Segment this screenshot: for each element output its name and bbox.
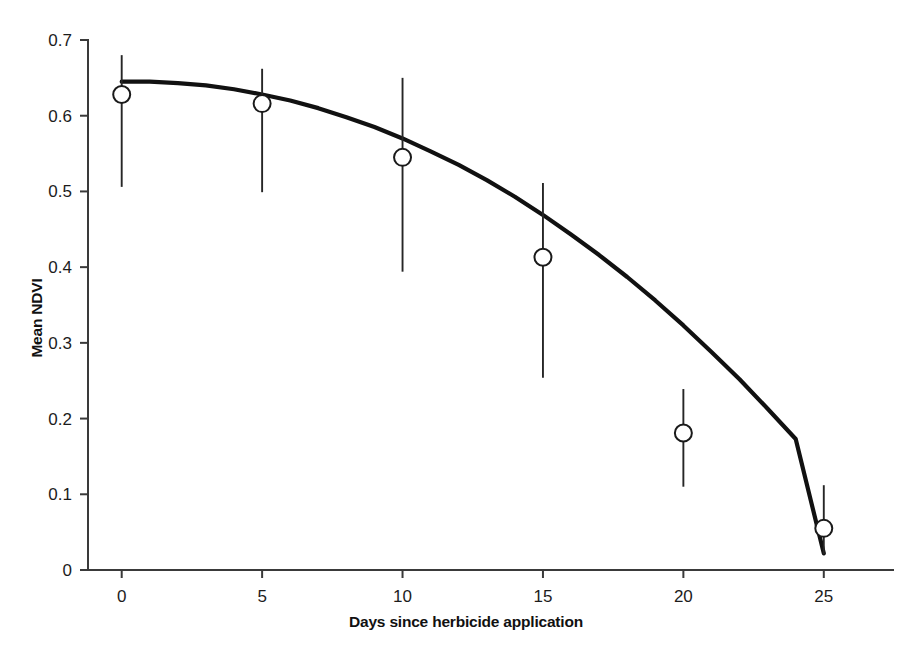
y-tick-label-7: 0.7 xyxy=(48,31,72,50)
y-tick-label-1: 0.1 xyxy=(48,485,72,504)
x-tick-label-2: 10 xyxy=(393,587,412,606)
y-tick-label-0: 0 xyxy=(63,561,72,580)
x-axis-tick-labels: 0510152025 xyxy=(117,587,833,606)
y-tick-label-5: 0.5 xyxy=(48,182,72,201)
data-point-0 xyxy=(113,86,130,103)
x-tick-label-0: 0 xyxy=(117,587,126,606)
data-point-markers xyxy=(113,86,832,537)
x-tick-label-4: 20 xyxy=(674,587,693,606)
fit-curve xyxy=(122,82,824,554)
y-axis-tick-labels: 00.10.20.30.40.50.60.7 xyxy=(48,31,72,580)
x-axis-title: Days since herbicide application xyxy=(349,613,583,630)
data-point-2 xyxy=(394,149,411,166)
x-tick-label-3: 15 xyxy=(533,587,552,606)
x-tick-label-5: 25 xyxy=(814,587,833,606)
data-point-5 xyxy=(815,520,832,537)
data-point-4 xyxy=(675,424,692,441)
y-tick-label-6: 0.6 xyxy=(48,107,72,126)
data-point-1 xyxy=(254,95,271,112)
y-tick-label-3: 0.3 xyxy=(48,334,72,353)
y-tick-label-4: 0.4 xyxy=(48,258,72,277)
data-point-3 xyxy=(534,249,551,266)
x-tick-label-1: 5 xyxy=(257,587,266,606)
chart-figure: 00.10.20.30.40.50.60.7 0510152025 Days s… xyxy=(0,0,924,653)
chart-plot-area: 00.10.20.30.40.50.60.7 0510152025 Days s… xyxy=(0,0,924,653)
error-bars xyxy=(122,55,824,554)
y-tick-label-2: 0.2 xyxy=(48,410,72,429)
y-axis-title: Mean NDVI xyxy=(28,278,45,357)
